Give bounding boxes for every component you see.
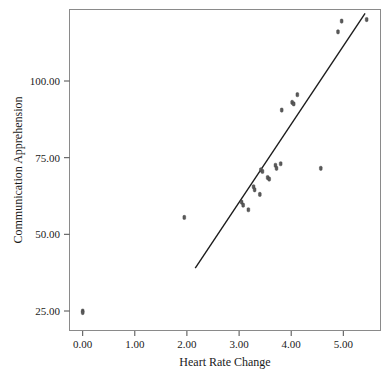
data-point [340, 19, 343, 23]
y-tick-label-75: 75.00 [35, 152, 60, 164]
data-point [337, 30, 340, 34]
x-tick-labels: 0.00 1.00 2.00 3.00 4.00 5.00 [73, 338, 353, 350]
x-tick-label-4: 4.00 [282, 338, 302, 350]
y-axis-ticks [64, 81, 70, 311]
data-point [292, 102, 295, 106]
x-tick-label-2: 2.00 [177, 338, 197, 350]
x-tick-label-3: 3.00 [229, 338, 249, 350]
data-point [280, 108, 283, 112]
data-point [268, 177, 271, 181]
x-axis-title: Heart Rate Change [179, 355, 270, 369]
y-tick-label-50: 50.00 [35, 228, 60, 240]
data-point [279, 162, 282, 166]
y-tick-label-100: 100.00 [30, 75, 61, 87]
data-point [183, 215, 186, 219]
data-point [81, 310, 84, 314]
x-axis-ticks [83, 331, 344, 336]
y-tick-labels: 25.00 50.00 75.00 100.00 [30, 75, 61, 317]
y-tick-label-25: 25.00 [35, 305, 60, 317]
x-tick-label-5: 5.00 [334, 338, 354, 350]
data-point [253, 188, 256, 192]
scatter-points-group [81, 17, 368, 314]
data-point [247, 208, 250, 212]
plot-canvas: 0.00 1.00 2.00 3.00 4.00 5.00 25.00 50.0… [0, 0, 387, 374]
data-point [365, 17, 368, 21]
data-point [275, 166, 278, 170]
regression-line [195, 13, 365, 268]
data-point [296, 93, 299, 97]
data-point [258, 192, 261, 196]
x-tick-label-1: 1.00 [125, 338, 145, 350]
scatter-plot-figure: 0.00 1.00 2.00 3.00 4.00 5.00 25.00 50.0… [0, 0, 387, 374]
data-point [319, 166, 322, 170]
data-point [242, 203, 245, 207]
x-tick-label-0: 0.00 [73, 338, 93, 350]
plot-frame [70, 10, 381, 331]
data-point [261, 169, 264, 173]
y-axis-title: Communication Apprehension [11, 97, 25, 244]
